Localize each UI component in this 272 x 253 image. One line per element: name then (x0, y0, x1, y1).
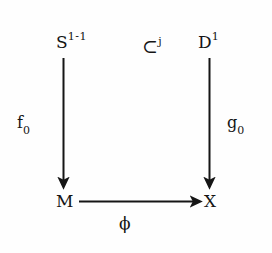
node-disk-label: D1 (198, 32, 219, 51)
left-arrow-label: f0 (17, 115, 30, 134)
right-arrow-label-subscript: 0 (237, 124, 244, 137)
node-sphere-label: S1-1 (56, 32, 87, 51)
node-inclusion-superscript: j (158, 35, 162, 48)
bottom-arrow-label: ϕ (119, 215, 131, 232)
node-sphere-base: S (56, 32, 68, 52)
node-manifold-label: M (56, 193, 74, 210)
right-arrow-label-base: g (227, 113, 237, 132)
node-disk-base: D (198, 32, 212, 52)
node-disk-superscript: 1 (212, 30, 220, 43)
commutative-diagram: S1-1 ⊂j D1 M X f0 g0 ϕ (0, 0, 272, 253)
subset-icon: ⊂ (142, 35, 158, 57)
node-space-label: X (204, 193, 216, 210)
node-sphere-superscript: 1-1 (68, 30, 87, 43)
left-arrow-label-subscript: 0 (23, 124, 30, 137)
node-inclusion-symbol: ⊂j (142, 37, 162, 56)
right-arrow-label: g0 (227, 115, 244, 134)
